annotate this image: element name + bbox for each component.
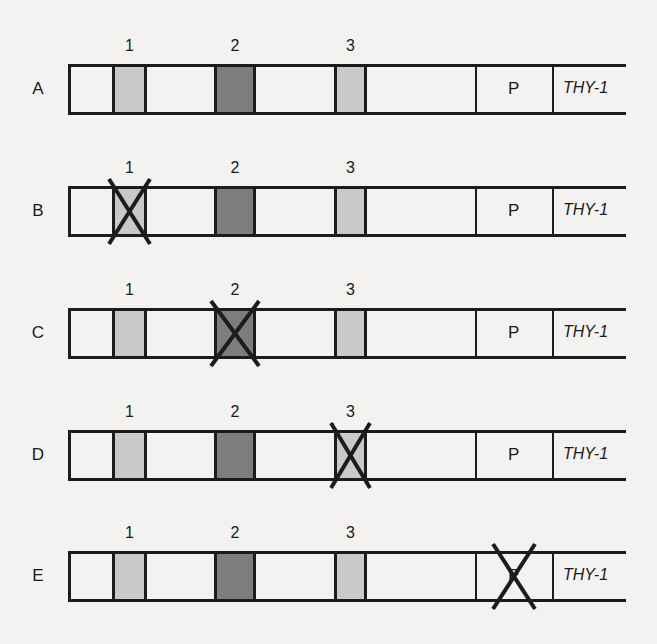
region-number-label: 1 (110, 524, 150, 542)
deletion-x-icon (328, 420, 373, 491)
region-number-label: 3 (331, 281, 371, 299)
promoter-right-divider (552, 551, 554, 602)
gene-label: THY-1 (563, 323, 608, 341)
construct-row-e: E123PTHY-1 (0, 0, 657, 122)
region-3-box (334, 186, 367, 237)
promoter-left-divider (475, 551, 477, 602)
region-number-label: 1 (110, 281, 150, 299)
region-2-box (214, 551, 256, 602)
promoter-label: P (508, 445, 519, 465)
deletion-x-icon (490, 541, 538, 612)
region-3-box (334, 308, 367, 359)
promoter-left-divider (475, 308, 477, 359)
construct-label: D (28, 445, 48, 465)
deletion-x-icon (208, 298, 262, 369)
region-number-label: 3 (331, 524, 371, 542)
region-number-label: 3 (331, 403, 371, 421)
region-number-label: 3 (331, 159, 371, 177)
region-number-label: 1 (110, 403, 150, 421)
promoter-label: P (508, 201, 519, 221)
region-number-label: 2 (215, 403, 255, 421)
gene-label: THY-1 (563, 445, 608, 463)
promoter-left-divider (475, 430, 477, 481)
construct-label: E (28, 566, 48, 586)
region-2-box (214, 430, 256, 481)
region-number-label: 1 (110, 159, 150, 177)
promoter-right-divider (552, 430, 554, 481)
region-2-box (214, 186, 256, 237)
promoter-right-divider (552, 186, 554, 237)
region-number-label: 2 (215, 281, 255, 299)
region-1-box (112, 551, 147, 602)
promoter-right-divider (552, 308, 554, 359)
gene-label: THY-1 (563, 566, 608, 584)
region-3-box (334, 551, 367, 602)
construct-label: B (28, 201, 48, 221)
promoter-left-divider (475, 186, 477, 237)
region-1-box (112, 430, 147, 481)
deletion-x-icon (106, 176, 153, 247)
gene-label: THY-1 (563, 201, 608, 219)
region-1-box (112, 308, 147, 359)
region-number-label: 2 (215, 524, 255, 542)
region-number-label: 2 (215, 159, 255, 177)
construct-label: C (28, 323, 48, 343)
promoter-label: P (508, 323, 519, 343)
